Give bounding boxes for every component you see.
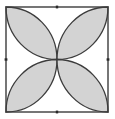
petal-top-right (57, 7, 108, 60)
petal-bottom-left (6, 60, 57, 113)
petal-bottom-right (57, 60, 108, 113)
midpoint-bottom-marker (56, 111, 58, 114)
square-petal-diagram (0, 0, 115, 119)
midpoint-left-marker (5, 58, 8, 60)
petals (6, 7, 108, 112)
midpoint-right-marker (107, 58, 110, 60)
midpoint-top-marker (56, 6, 58, 9)
petal-top-left (6, 7, 57, 60)
